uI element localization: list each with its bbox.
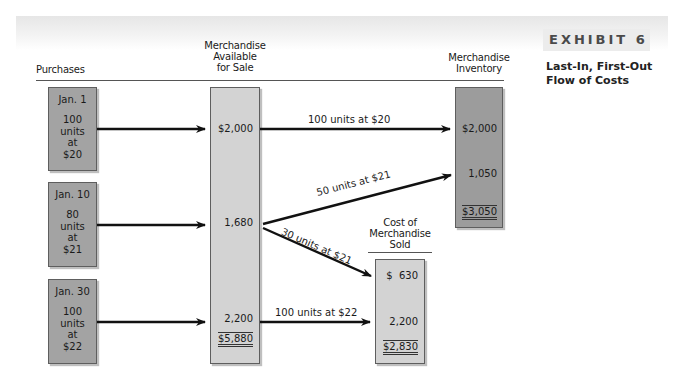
flow-arrows (0, 0, 688, 388)
flow-label-inventory-1: 100 units at $20 (308, 114, 390, 125)
flow-label-cogs-2: 100 units at $22 (275, 307, 357, 318)
